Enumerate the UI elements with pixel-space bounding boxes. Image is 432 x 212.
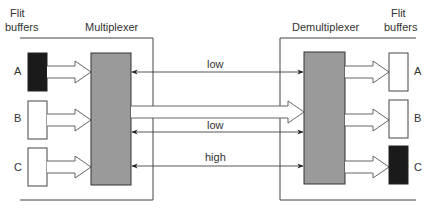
demultiplexer-block	[304, 52, 345, 184]
multiplexer-title: Multiplexer	[85, 21, 139, 33]
left-buffer-a-label: A	[14, 65, 22, 77]
left-buffers-title-1: Flit	[10, 7, 25, 19]
left-buffer-c	[28, 148, 47, 186]
right-buffer-b-label: B	[414, 112, 421, 124]
credit-link-2-label: low	[207, 119, 224, 131]
right-wide-arrows	[345, 61, 389, 178]
wide-arrow-out-b-icon	[345, 109, 389, 131]
left-wide-arrows	[47, 61, 91, 178]
right-buffers-title-2: buffers	[384, 21, 418, 33]
multiplexer-block	[91, 53, 131, 185]
left-buffer-c-label: C	[14, 161, 22, 173]
left-buffer-b-label: B	[14, 112, 21, 124]
wide-arrow-out-c-icon	[345, 156, 389, 178]
right-buffers-title-1: Flit	[391, 7, 406, 19]
right-buffer-c	[389, 146, 408, 184]
credit-link-3-label: high	[205, 151, 226, 163]
left-buffers-title-2: buffers	[5, 21, 39, 33]
wide-arrow-c-icon	[47, 156, 91, 178]
left-buffer-b	[28, 101, 47, 139]
demultiplexer-title: Demultiplexer	[292, 21, 360, 33]
right-buffer-a	[389, 53, 408, 91]
right-buffer-c-label: C	[414, 161, 422, 173]
wide-arrow-a-icon	[47, 61, 91, 83]
credit-link-1-label: low	[207, 58, 224, 70]
left-buffer-a	[28, 53, 47, 91]
flit-mux-diagram: Flit buffers Multiplexer A B C Demultipl…	[0, 0, 432, 212]
wide-arrow-b-icon	[47, 109, 91, 131]
right-buffer-b	[389, 100, 408, 138]
right-buffer-a-label: A	[414, 65, 422, 77]
wide-arrow-out-a-icon	[345, 61, 389, 83]
